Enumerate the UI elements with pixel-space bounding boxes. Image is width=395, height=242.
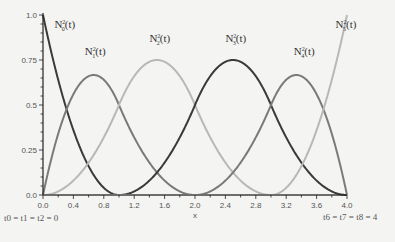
basis-curve-1	[43, 75, 347, 195]
basis-curve-2	[43, 60, 347, 195]
y-tick-label: 0.5	[26, 101, 38, 110]
x-axis-label: x	[193, 211, 197, 220]
y-tick-label: 0.0	[26, 191, 38, 200]
curve-label-1: N21(t)	[85, 45, 106, 59]
curve-label-4: N24(t)	[294, 45, 315, 59]
curves	[43, 15, 347, 195]
y-tick-label: 0.25	[21, 146, 37, 155]
x-tick-label: 0.4	[68, 201, 80, 210]
curve-labels: N20(t)N21(t)N22(t)N23(t)N24(t)N25(t)	[54, 18, 356, 59]
curve-label-5: N25(t)	[336, 18, 357, 32]
bspline-chart: 0.00.40.81.21.62.02.42.83.23.64.00.00.25…	[0, 0, 395, 242]
x-tick-label: 2.8	[250, 201, 262, 210]
y-tick-label: 0.75	[21, 56, 37, 65]
x-tick-label: 0.8	[98, 201, 110, 210]
x-tick-label: 0.0	[37, 201, 49, 210]
x-tick-label: 2.0	[189, 201, 201, 210]
x-tick-label: 2.4	[220, 201, 232, 210]
x-tick-label: 3.2	[281, 201, 293, 210]
x-tick-label: 1.6	[159, 201, 171, 210]
basis-curve-3	[43, 60, 347, 195]
curve-label-2: N22(t)	[149, 32, 170, 46]
left-knots-annotation: t0 = t1 = t2 = 0	[4, 213, 59, 223]
x-tick-label: 1.2	[129, 201, 141, 210]
curve-label-3: N23(t)	[225, 32, 246, 46]
curve-label-0: N20(t)	[54, 18, 75, 32]
y-tick-label: 1.0	[26, 11, 38, 20]
basis-curve-4	[43, 75, 347, 195]
right-knots-annotation: t6 = t7 = t8 = 4	[323, 212, 378, 222]
x-tick-label: 4.0	[341, 201, 353, 210]
x-tick-label: 3.6	[311, 201, 323, 210]
